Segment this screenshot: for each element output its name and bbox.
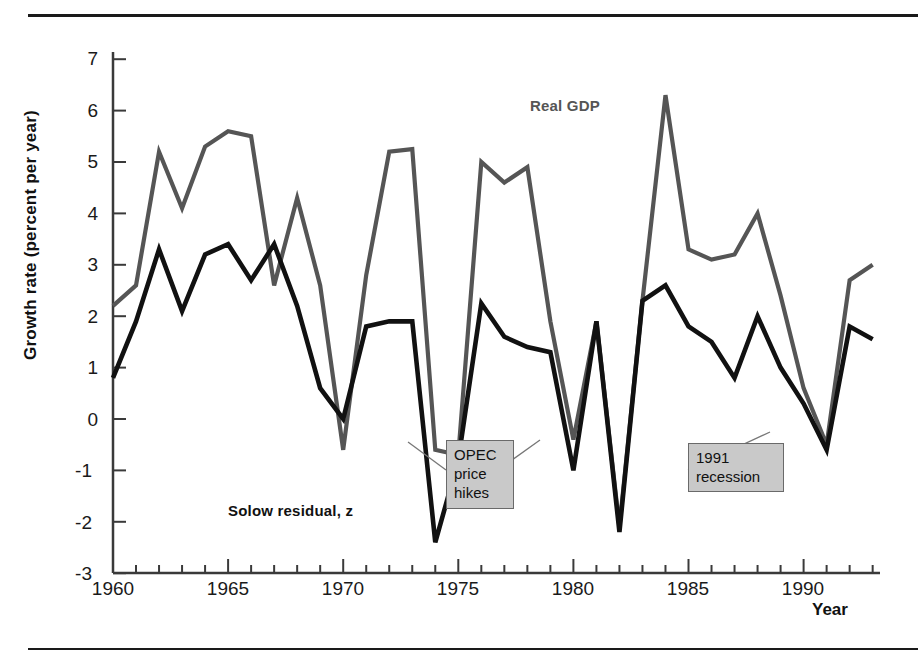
y-axis-ticks (113, 59, 126, 573)
annotation-opec-line-1: OPEC (454, 445, 506, 464)
annotation-opec-line-2: price (454, 464, 506, 483)
plot-area (0, 0, 918, 658)
series-label-real-gdp: Real GDP (530, 97, 600, 114)
annotation-opec-line-3: hikes (454, 483, 506, 502)
series-label-solow-residual: Solow residual, z (228, 502, 353, 519)
annotation-1991-recession: 1991 recession (688, 443, 784, 492)
figure-container: Growth rate (percent per year) Year 7 6 … (0, 0, 918, 658)
annotation-recession-line-1: 1991 (696, 448, 776, 467)
annotation-recession-line-2: recession (696, 467, 776, 486)
x-axis-ticks (113, 559, 873, 573)
annotation-opec-price-hikes: OPEC price hikes (446, 440, 514, 509)
